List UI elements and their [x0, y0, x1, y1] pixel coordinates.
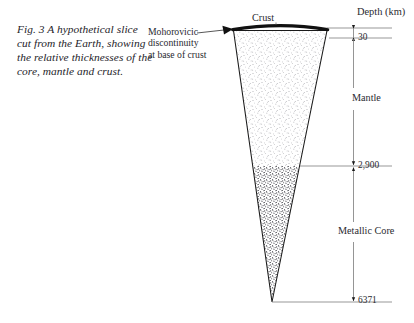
mantle-layer — [225, 28, 335, 168]
metallic-core-label: Metallic Core — [338, 225, 394, 236]
figure-container: Fig. 3 A hypothetical slice cut from the… — [0, 0, 414, 323]
earth-wedge — [225, 26, 335, 309]
figure-caption: Fig. 3 A hypothetical slice cut from the… — [17, 22, 153, 78]
depth-tick-2900: 2,900 — [358, 160, 379, 170]
mantle-label: Mantle — [352, 92, 381, 103]
moho-annotation: Mohorovicic discontinuity at base of cru… — [148, 26, 224, 60]
moho-line-2: discontinuity — [148, 37, 224, 48]
crust-label: Crust — [252, 12, 274, 23]
core-layer — [225, 164, 335, 309]
crust-arc — [233, 26, 328, 30]
depth-scale-header: Depth (km) — [357, 6, 405, 17]
depth-tick-6371: 6371 — [358, 295, 377, 305]
moho-line-3: at base of crust — [148, 49, 224, 60]
depth-tick-30: 30 — [358, 32, 367, 42]
moho-line-1: Mohorovicic — [148, 26, 224, 37]
